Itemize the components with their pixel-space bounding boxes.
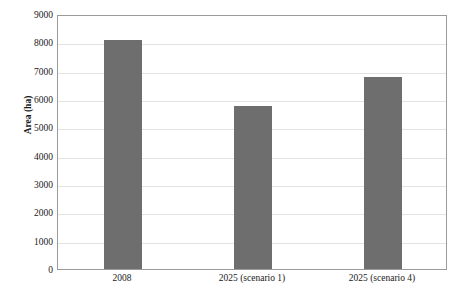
y-tick-label: 3000 (34, 180, 53, 190)
cropped-caption-fragment-top (330, 0, 420, 2)
x-tick-label: 2008 (113, 273, 132, 283)
y-tick-label: 4000 (34, 152, 53, 162)
y-tick-label: 1000 (34, 237, 53, 247)
bar-chart-figure: Area (ha) 010002000300040005000600070008… (0, 0, 457, 301)
y-tick-label: 5000 (34, 123, 53, 133)
bars-layer (58, 16, 446, 269)
x-tick-label: 2025 (scenario 1) (219, 273, 285, 283)
bar (234, 106, 272, 269)
y-tick-label: 2000 (34, 208, 53, 218)
bar (104, 40, 142, 270)
x-axis-tick-labels: 20082025 (scenario 1)2025 (scenario 4) (57, 273, 447, 289)
y-tick-label: 7000 (34, 67, 53, 77)
plot-area (57, 15, 447, 270)
bar (364, 77, 402, 269)
y-tick-label: 6000 (34, 95, 53, 105)
y-tick-label: 9000 (34, 10, 53, 20)
y-tick-label: 8000 (34, 38, 53, 48)
y-tick-label: 0 (48, 265, 53, 275)
x-tick-label: 2025 (scenario 4) (349, 273, 415, 283)
y-axis-tick-labels: 0100020003000400050006000700080009000 (0, 0, 57, 301)
